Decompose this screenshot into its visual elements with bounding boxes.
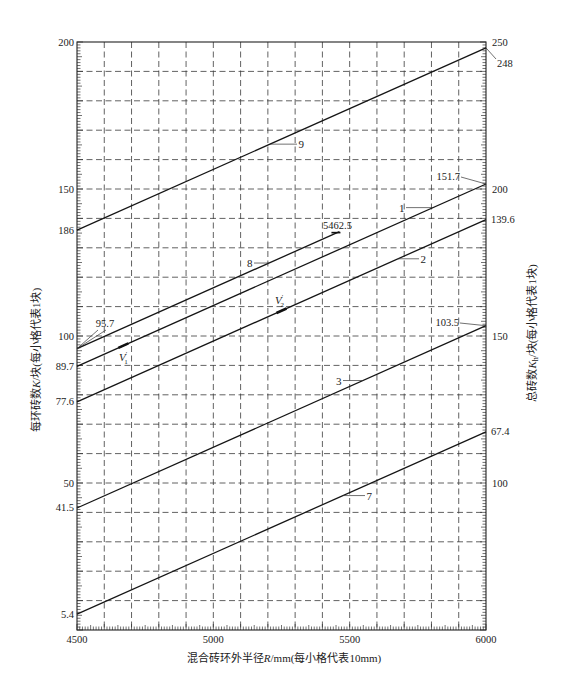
y-left-tick-label: 100 [58, 331, 74, 342]
series-label-8: 8 [247, 257, 253, 269]
y-left-tick-label: 150 [58, 184, 74, 195]
y-axis-left-title: 每环砖数K/块(每小格代表1块) [29, 288, 43, 433]
y-right-tick-label: 200 [492, 184, 508, 195]
series-label-7: 7 [367, 490, 373, 502]
nomogram-chart: 981237V′1V′218695.789.777.641.55.4248151… [0, 0, 561, 692]
value-annotation: 67.4 [491, 426, 510, 437]
value-annotation: 95.7 [96, 318, 114, 329]
value-annotation: 139.6 [491, 214, 515, 225]
value-annotation: 89.7 [56, 361, 74, 372]
value-annotation: 151.7 [436, 171, 460, 182]
series-label-2: 2 [421, 253, 427, 265]
x-axis-title-prefix: 混合砖环外半径 [187, 651, 264, 664]
x-tick-label: 4500 [67, 634, 88, 645]
x-tick-label: 6000 [476, 634, 497, 645]
left-axis-ticks [77, 42, 83, 630]
marker-subscript: 2 [280, 301, 284, 309]
marker-subscript: 1 [124, 358, 128, 366]
value-annotation: 248 [497, 58, 513, 69]
value-annotation: 5.4 [61, 609, 75, 620]
y-right-tick-label: 100 [492, 478, 508, 489]
y-right-title-suffix: /块(每小格代表1块) [525, 264, 539, 357]
y-left-tick-label: 200 [58, 37, 74, 48]
y-right-tick-label: 250 [492, 37, 508, 48]
right-axis-ticks [480, 42, 486, 630]
y-right-title-prefix: 总砖数 [525, 369, 538, 402]
value-annotation: 77.6 [56, 396, 74, 407]
series-label-9: 9 [299, 138, 305, 150]
y-left-tick-label: 50 [64, 478, 75, 489]
x-tick-label: 5500 [339, 634, 360, 645]
value-annotation: 186 [58, 225, 74, 236]
x-axis-title-suffix: /mm(每小格代表10mm) [271, 651, 382, 665]
x-axis-title: 混合砖环外半径R/mm(每小格代表10mm) [187, 651, 382, 665]
x-tick-label: 5000 [203, 634, 224, 645]
y-left-title-prefix: 每环砖数 [29, 388, 42, 432]
value-annotation: 41.5 [56, 502, 74, 513]
y-axis-right-title: 总砖数Kh/块(每小格代表1块) [525, 264, 540, 402]
gridlines [77, 42, 486, 630]
value-annotation: 103.5 [435, 317, 459, 328]
series-label-1: 1 [399, 202, 405, 214]
value-annotation: 5462.5 [323, 220, 352, 231]
y-right-tick-label: 150 [492, 331, 508, 342]
y-left-title-suffix: /块(每小格代表1块) [29, 288, 43, 381]
series-label-3: 3 [336, 375, 342, 387]
